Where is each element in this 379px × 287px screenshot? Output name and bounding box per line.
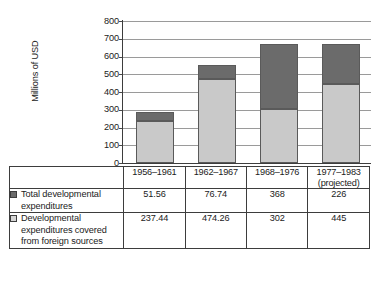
bar-1962-1967 xyxy=(198,65,236,163)
y-tick-label: 100 xyxy=(86,141,119,150)
dark-gray-square-icon xyxy=(10,191,17,198)
light-gray-square-icon xyxy=(10,215,17,222)
bar-segment-foreign-sources xyxy=(198,79,236,163)
y-tick-label: 600 xyxy=(86,52,119,61)
x-axis-line xyxy=(122,163,371,164)
table-cell: 474.26 xyxy=(185,213,246,249)
bar-segment-total-expenditures xyxy=(322,44,360,84)
period-label: 1956–1961 xyxy=(124,167,184,178)
bar-segment-total-expenditures xyxy=(260,44,298,109)
y-tick-label: 300 xyxy=(86,105,119,114)
y-axis-title: Millions of USD xyxy=(30,16,40,126)
bar-1956-1961 xyxy=(136,112,174,163)
chart-with-data-table: Millions of USD 800 700 600 500 400 300 … xyxy=(0,0,379,287)
bar-segment-foreign-sources xyxy=(322,84,360,163)
y-axis-tick-labels: 800 700 600 500 400 300 200 100 0 xyxy=(86,0,119,166)
legend-row-foreign-sources: Developmental expenditures covered from … xyxy=(10,213,124,249)
period-header-3: 1968–1976 xyxy=(247,167,308,189)
table-row: Total developmental expenditures 51.56 7… xyxy=(10,189,370,213)
table-cell: 302 xyxy=(247,213,308,249)
table-cell: 368 xyxy=(247,189,308,213)
bar-segment-total-expenditures xyxy=(136,112,174,121)
bar-segment-foreign-sources xyxy=(136,121,174,163)
y-tick-label: 200 xyxy=(86,123,119,132)
gridline xyxy=(123,21,371,22)
y-tick-label: 400 xyxy=(86,88,119,97)
period-header-4: 1977–1983 (projected) xyxy=(308,167,370,189)
bar-1977-1983 xyxy=(322,44,360,163)
table-cell: 445 xyxy=(308,213,370,249)
period-label: 1962–1967 xyxy=(186,167,246,178)
table-cell: 76.74 xyxy=(185,189,246,213)
table-corner-cell xyxy=(10,167,124,189)
bar-segment-foreign-sources xyxy=(260,109,298,163)
y-tick-label: 500 xyxy=(86,70,119,79)
plot-area xyxy=(123,21,371,163)
period-header-1: 1956–1961 xyxy=(124,167,185,189)
gridline xyxy=(123,39,371,40)
data-table: 1956–1961 1962–1967 1968–1976 1977–1983 … xyxy=(9,166,370,249)
series-label: Total developmental expenditures xyxy=(21,189,123,212)
series-label: Developmental expenditures covered from … xyxy=(21,213,123,248)
table-row-periods: 1956–1961 1962–1967 1968–1976 1977–1983 … xyxy=(10,167,370,189)
table-row: Developmental expenditures covered from … xyxy=(10,213,370,249)
table-cell: 226 xyxy=(308,189,370,213)
period-label: 1968–1976 xyxy=(247,167,307,178)
period-label: 1977–1983 xyxy=(308,167,369,178)
period-sublabel: (projected) xyxy=(308,178,369,189)
table-cell: 237.44 xyxy=(124,213,185,249)
y-tick-label: 800 xyxy=(86,17,119,26)
y-tick-label: 700 xyxy=(86,34,119,43)
bar-1968-1976 xyxy=(260,44,298,163)
legend-row-total-expenditures: Total developmental expenditures xyxy=(10,189,124,213)
stacked-bar-chart: Millions of USD 800 700 600 500 400 300 … xyxy=(0,0,379,166)
table-cell: 51.56 xyxy=(124,189,185,213)
bar-segment-total-expenditures xyxy=(198,65,236,79)
period-header-2: 1962–1967 xyxy=(185,167,246,189)
